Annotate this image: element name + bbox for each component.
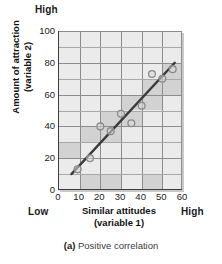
x-axis-low-label: Low	[28, 206, 48, 217]
x-tick-50: 50	[151, 192, 171, 202]
data-point	[87, 155, 94, 162]
x-axis-title: Similar attitudes (variable 1)	[56, 205, 182, 229]
x-tick-20: 20	[89, 192, 109, 202]
figure-positive-correlation: High Amount of attraction (variable 2) 0…	[0, 0, 222, 264]
data-point	[74, 166, 81, 173]
data-point	[138, 102, 145, 109]
data-points	[74, 66, 176, 173]
x-tick-30: 30	[110, 192, 130, 202]
x-axis-high-label: High	[181, 206, 204, 217]
x-axis-title-line2: (variable 1)	[56, 217, 182, 229]
x-tick-40: 40	[131, 192, 151, 202]
figure-caption: (a) Positive correlation	[0, 240, 222, 251]
data-point	[169, 66, 176, 73]
data-point	[107, 128, 114, 135]
x-tick-60: 60	[172, 192, 192, 202]
data-point	[118, 110, 125, 117]
caption-marker: (a)	[64, 240, 76, 251]
data-point	[159, 75, 166, 82]
plot-area	[58, 31, 182, 190]
data-point	[128, 120, 135, 127]
data-point	[97, 123, 104, 130]
x-tick-10: 10	[69, 192, 89, 202]
data-layer	[59, 31, 182, 190]
data-point	[149, 71, 156, 78]
x-axis-title-line1: Similar attitudes	[56, 205, 182, 217]
x-tick-0: 0	[48, 192, 68, 202]
caption-text: Positive correlation	[78, 240, 158, 251]
